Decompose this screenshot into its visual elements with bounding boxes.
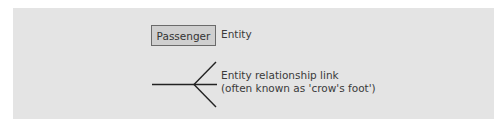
relationship-link-line2: (often known as 'crow's foot') xyxy=(221,82,376,95)
relationship-link-description: Entity relationship link (often known as… xyxy=(221,69,376,95)
relationship-link-line1: Entity relationship link xyxy=(221,69,376,82)
crows-foot-icon xyxy=(0,0,501,124)
